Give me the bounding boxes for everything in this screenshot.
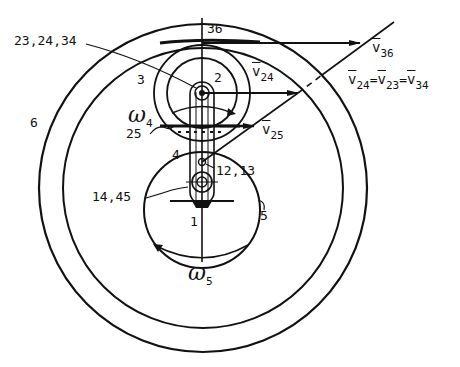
ground-block <box>192 201 212 208</box>
label-v36: v36 <box>372 40 394 54</box>
eq-b-sub: 23 <box>386 79 399 92</box>
leader-12-13 <box>206 164 214 168</box>
label-joint-14-45: 14,45 <box>92 190 131 203</box>
omega5-sub: 5 <box>206 275 213 288</box>
label-joint-23-24-34: 23,24,34 <box>14 34 77 47</box>
label-36: 36 <box>207 22 223 35</box>
eq-sign-2: = <box>399 72 407 87</box>
eq-c-sub: 34 <box>415 79 428 92</box>
v25-sub: 25 <box>270 129 283 142</box>
leader-14-45 <box>146 187 188 198</box>
label-omega-4: ω4 <box>128 104 153 126</box>
v24-sub: 24 <box>260 71 273 84</box>
label-link-4: 4 <box>172 148 180 161</box>
label-omega-5: ω5 <box>188 262 213 284</box>
label-contact-25: 25 <box>126 127 142 140</box>
outer-ring-6-outer <box>39 24 367 352</box>
label-link-1: 1 <box>190 215 198 228</box>
velocity-profile-dashed <box>298 75 322 93</box>
label-link-5: 5 <box>260 209 268 222</box>
omega4-sub: 4 <box>146 117 153 130</box>
label-v25: v25 <box>262 122 284 136</box>
label-v24: v24 <box>252 64 274 78</box>
label-link-6: 6 <box>30 116 38 129</box>
v36-sub: 36 <box>380 47 393 60</box>
eq-sign-1: = <box>370 72 378 87</box>
label-link-2: 2 <box>214 71 222 84</box>
label-joint-12-13: 12,13 <box>216 164 255 177</box>
omega4-arrowhead <box>227 108 236 116</box>
omega4-symbol: ω <box>128 102 146 127</box>
label-link-3: 3 <box>137 73 145 86</box>
omega5-symbol: ω <box>188 260 206 285</box>
label-velocity-equality: v24=v23=v34 <box>348 72 429 86</box>
eq-b-symbol: v <box>378 71 386 87</box>
eq-a-sub: 24 <box>356 79 369 92</box>
